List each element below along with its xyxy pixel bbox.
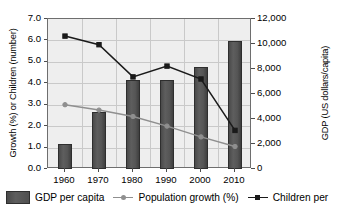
legend-swatch-line-icon xyxy=(248,192,268,203)
legend-swatch-bar-icon xyxy=(6,191,30,204)
tick-mark xyxy=(251,93,255,94)
tick-mark xyxy=(44,168,48,169)
tick-mark xyxy=(44,39,48,40)
legend-item-population-growth[interactable]: Population growth (%) xyxy=(113,192,238,203)
data-point-2000 xyxy=(199,77,203,81)
tick-mark xyxy=(132,168,133,172)
data-point-1970 xyxy=(97,108,101,112)
tick-mark xyxy=(251,168,255,169)
tick-mark xyxy=(44,104,48,105)
data-point-2000 xyxy=(199,135,203,139)
y-axis-right-tick-4000: 4,000 xyxy=(257,112,281,123)
legend-label: Children per xyxy=(273,192,329,203)
legend-label: GDP per capita xyxy=(35,192,104,203)
tick-mark xyxy=(251,43,255,44)
data-point-1980 xyxy=(131,114,135,118)
y-axis-right-tick-2000: 2,000 xyxy=(257,137,281,148)
line-path xyxy=(65,36,235,130)
y-axis-right-tick-0: 0 xyxy=(257,162,262,173)
y-axis-right-tick-8000: 8,000 xyxy=(257,62,281,73)
y-axis-left-title: Growth (%) or Children (number) xyxy=(8,18,18,168)
legend-swatch-line-icon xyxy=(113,192,133,203)
legend-item-gdp-per-capita[interactable]: GDP per capita xyxy=(6,191,104,204)
y-axis-left-tick-2.0: 2.0 xyxy=(28,119,41,130)
tick-mark xyxy=(98,168,99,172)
tick-mark xyxy=(64,168,65,172)
line-series-children-per xyxy=(63,34,237,133)
y-axis-right-tick-10000: 10,000 xyxy=(257,37,286,48)
tick-mark xyxy=(44,82,48,83)
chart-container: Growth (%) or Children (number) GDP (US … xyxy=(0,0,339,210)
tick-mark xyxy=(234,168,235,172)
tick-mark xyxy=(44,61,48,62)
tick-mark xyxy=(44,18,48,19)
y-axis-left-tick-6.0: 6.0 xyxy=(28,33,41,44)
tick-mark xyxy=(251,118,255,119)
data-point-1990 xyxy=(165,64,169,68)
tick-mark xyxy=(44,125,48,126)
line-series-population-growth xyxy=(63,103,237,149)
tick-mark xyxy=(251,143,255,144)
legend-item-children-per[interactable]: Children per xyxy=(248,192,329,203)
y-axis-left-tick-1.0: 1.0 xyxy=(28,140,41,151)
y-axis-left-tick-5.0: 5.0 xyxy=(28,54,41,65)
tick-mark xyxy=(44,147,48,148)
data-point-1960 xyxy=(63,34,67,38)
tick-mark xyxy=(251,18,255,19)
data-point-2010 xyxy=(233,144,237,148)
tick-mark xyxy=(200,168,201,172)
y-axis-right-title: GDP (US dollars/capita) xyxy=(320,18,330,168)
y-axis-right-tick-12000: 12,000 xyxy=(257,12,286,23)
y-axis-left-tick-0.0: 0.0 xyxy=(28,162,41,173)
y-axis-left-tick-3.0: 3.0 xyxy=(28,97,41,108)
tick-mark xyxy=(251,68,255,69)
data-point-1990 xyxy=(165,124,169,128)
chart-legend: GDP per capitaPopulation growth (%)Child… xyxy=(6,188,339,206)
legend-label: Population growth (%) xyxy=(138,192,238,203)
data-point-2010 xyxy=(233,128,237,132)
legend-line-marker-icon xyxy=(121,195,126,200)
y-axis-left-tick-7.0: 7.0 xyxy=(28,12,41,23)
x-axis-tick-2010: 2010 xyxy=(214,174,254,185)
line-series-layer xyxy=(48,19,252,169)
plot-area xyxy=(47,18,251,168)
line-path xyxy=(65,105,235,147)
y-axis-right-tick-6000: 6,000 xyxy=(257,87,281,98)
data-point-1960 xyxy=(63,103,67,107)
data-point-1970 xyxy=(97,43,101,47)
tick-mark xyxy=(166,168,167,172)
data-point-1980 xyxy=(131,75,135,79)
legend-line-marker-icon xyxy=(255,195,260,200)
y-axis-left-tick-4.0: 4.0 xyxy=(28,76,41,87)
